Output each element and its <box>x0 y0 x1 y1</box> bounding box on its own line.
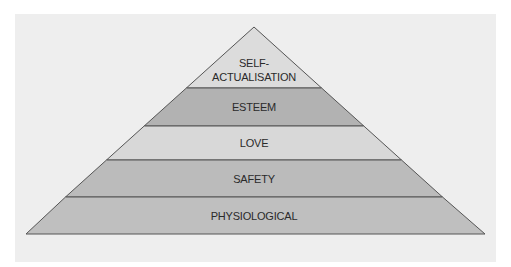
level-label-self-actualisation-line2: ACTUALISATION <box>212 71 296 83</box>
level-label-safety: SAFETY <box>233 173 275 185</box>
pyramid-level-love: LOVE <box>107 126 402 160</box>
pyramid-level-esteem: ESTEEM <box>144 88 364 126</box>
level-label-love: LOVE <box>240 137 269 149</box>
pyramid-level-safety: SAFETY <box>66 160 443 197</box>
level-label-physiological: PHYSIOLOGICAL <box>211 210 298 222</box>
pyramid-diagram: SELF- ACTUALISATION ESTEEM LOVE SAFETY P… <box>0 0 511 267</box>
level-label-self-actualisation-line1: SELF- <box>239 57 270 69</box>
pyramid-level-physiological: PHYSIOLOGICAL <box>26 197 485 234</box>
level-label-esteem: ESTEEM <box>232 101 276 113</box>
pyramid-level-self-actualisation: SELF- ACTUALISATION <box>186 27 321 88</box>
